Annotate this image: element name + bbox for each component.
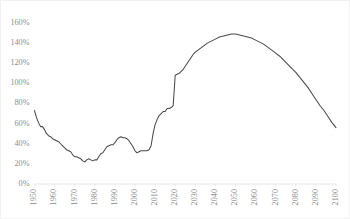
chart-container: 160%140%120%100%80%60%40%20%0% 195019601…	[0, 0, 350, 219]
y-axis-tick-labels: 160%140%120%100%80%60%40%20%0%	[10, 18, 29, 188]
y-tick-label: 20%	[14, 159, 29, 168]
x-tick-label: 1960	[49, 189, 58, 205]
x-tick-label: 2020	[170, 189, 179, 205]
x-tick-label: 1950	[29, 189, 38, 205]
x-tick-label: 1970	[70, 189, 79, 205]
x-axis-tick-labels: 1950196019701980199020002010202020302040…	[29, 189, 340, 205]
x-tick-label: 2040	[210, 189, 219, 205]
x-tick-label: 2000	[130, 189, 139, 205]
y-tick-label: 140%	[10, 38, 29, 47]
y-tick-label: 0%	[19, 179, 30, 188]
y-tick-label: 40%	[14, 139, 29, 148]
x-tick-label: 2070	[271, 189, 280, 205]
x-tick-label: 1990	[110, 189, 119, 205]
y-tick-label: 80%	[14, 98, 29, 107]
x-tick-label: 1980	[90, 189, 99, 205]
x-tick-label: 2090	[311, 189, 320, 205]
y-tick-label: 60%	[14, 119, 29, 128]
data-series-line	[35, 34, 337, 162]
y-tick-label: 160%	[10, 18, 29, 27]
x-tick-label: 2060	[250, 189, 259, 205]
x-tick-label: 2080	[291, 189, 300, 205]
y-tick-label: 100%	[10, 78, 29, 87]
x-tick-label: 2030	[190, 189, 199, 205]
y-tick-label: 120%	[10, 58, 29, 67]
x-tick-label: 2100	[331, 189, 340, 205]
x-tick-label: 2010	[150, 189, 159, 205]
x-tick-label: 2050	[230, 189, 239, 205]
line-chart: 160%140%120%100%80%60%40%20%0% 195019601…	[1, 1, 350, 219]
